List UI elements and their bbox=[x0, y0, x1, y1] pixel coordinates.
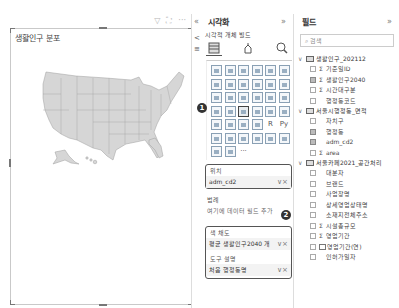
field-item[interactable]: 영업기간(연) bbox=[298, 242, 398, 253]
table-node[interactable]: ∨ 서울시행정동_면적 bbox=[298, 106, 398, 116]
power-apps-icon[interactable] bbox=[279, 133, 290, 144]
multi-row-card-icon[interactable] bbox=[279, 106, 290, 117]
resize-handle[interactable] bbox=[99, 27, 107, 29]
checkbox[interactable] bbox=[310, 212, 316, 218]
field-item[interactable]: 자치구 bbox=[298, 116, 398, 127]
line-chart-icon[interactable] bbox=[211, 79, 222, 90]
pie-chart-icon[interactable] bbox=[252, 92, 263, 103]
matrix-icon[interactable] bbox=[252, 119, 263, 130]
gauge-icon[interactable] bbox=[252, 106, 263, 117]
filter-icon[interactable]: ▽ bbox=[154, 16, 160, 26]
card-icon[interactable] bbox=[265, 106, 276, 117]
filled-map-visual[interactable]: ▽ ⛶ ··· 생활인구 분포 bbox=[10, 28, 193, 305]
100-stacked-column-chart-icon[interactable] bbox=[279, 65, 290, 76]
clustered-column-chart-icon[interactable] bbox=[252, 65, 263, 76]
filled-map-icon[interactable] bbox=[238, 106, 249, 117]
format-tab[interactable] bbox=[240, 40, 256, 56]
legend-drop-zone[interactable]: 여기에 데이터 필드 추가 bbox=[205, 205, 292, 217]
table-node[interactable]: ∨ 서울카페2021_공간처리 bbox=[298, 158, 398, 168]
checkbox[interactable] bbox=[310, 254, 316, 260]
field-item[interactable]: 대분자 bbox=[298, 168, 398, 179]
collapse-pane-icon[interactable]: « bbox=[194, 17, 204, 26]
more-visuals-icon[interactable]: ··· bbox=[238, 146, 249, 157]
stacked-bar-chart-icon[interactable] bbox=[211, 65, 222, 76]
field-item[interactable]: 상세영업상태명 bbox=[298, 200, 398, 211]
field-item[interactable]: Σ시간대구분 bbox=[298, 85, 398, 96]
location-field[interactable]: adm_cd2 ∨× bbox=[206, 176, 291, 188]
saturation-field[interactable]: 평균 생활인구2040 개 ∨× bbox=[206, 238, 291, 250]
field-item[interactable]: Σ영업기간 bbox=[298, 231, 398, 242]
map-icon[interactable] bbox=[211, 106, 222, 117]
table-node[interactable]: ∨ 생활인구_202112 bbox=[298, 54, 398, 64]
checkbox[interactable] bbox=[310, 118, 316, 124]
field-dropdown-remove-icon[interactable]: ∨× bbox=[277, 176, 288, 188]
field-item[interactable]: 소재지전체주소 bbox=[298, 210, 398, 221]
checkbox[interactable] bbox=[310, 181, 316, 187]
field-item[interactable]: 인허가일자 bbox=[298, 252, 398, 263]
filters-icon[interactable]: ≡ bbox=[194, 45, 202, 53]
checkbox[interactable] bbox=[310, 202, 316, 208]
checkbox[interactable] bbox=[310, 98, 316, 104]
expand-pane-icon[interactable]: » bbox=[281, 17, 291, 26]
funnel-chart-icon[interactable] bbox=[225, 92, 236, 103]
build-visual-tab[interactable] bbox=[206, 40, 222, 56]
checkbox[interactable] bbox=[310, 233, 316, 239]
area-chart-icon[interactable] bbox=[225, 79, 236, 90]
field-item[interactable]: 브랜드 bbox=[298, 179, 398, 190]
table-icon[interactable] bbox=[238, 119, 249, 130]
shape-map-icon[interactable] bbox=[225, 106, 236, 117]
clustered-bar-chart-icon[interactable] bbox=[238, 65, 249, 76]
chevron-down-icon[interactable]: ∨ bbox=[298, 106, 304, 116]
checkbox[interactable] bbox=[310, 66, 316, 72]
python-visual-icon[interactable]: Py bbox=[279, 119, 290, 130]
field-item[interactable]: Σ생활인구2040 bbox=[298, 75, 398, 86]
resize-handle[interactable] bbox=[99, 304, 107, 306]
checkbox[interactable] bbox=[310, 87, 316, 93]
chevron-down-icon[interactable]: ∨ bbox=[298, 54, 304, 64]
stacked-area-chart-icon[interactable] bbox=[238, 79, 249, 90]
expand-pane-icon[interactable]: » bbox=[387, 17, 397, 26]
more-options-icon[interactable]: ··· bbox=[178, 16, 186, 26]
focus-mode-icon[interactable]: ⛶ bbox=[166, 16, 172, 26]
checkbox[interactable] bbox=[310, 150, 316, 156]
checkbox[interactable] bbox=[310, 244, 316, 250]
field-dropdown-remove-icon[interactable]: ∨× bbox=[277, 238, 288, 250]
analytics-tab[interactable] bbox=[274, 40, 290, 56]
treemap-icon[interactable] bbox=[279, 92, 290, 103]
donut-chart-icon[interactable] bbox=[265, 92, 276, 103]
kpi-icon[interactable] bbox=[211, 119, 222, 130]
line-clustered-column-icon[interactable] bbox=[265, 79, 276, 90]
field-dropdown-remove-icon[interactable]: ∨× bbox=[277, 264, 288, 276]
fields-search-input[interactable]: ⌕ 검색 bbox=[300, 34, 394, 47]
100-stacked-bar-chart-icon[interactable] bbox=[265, 65, 276, 76]
field-item[interactable]: 행정동코드 bbox=[298, 96, 398, 107]
checkbox[interactable] bbox=[310, 139, 316, 145]
checkbox[interactable] bbox=[310, 129, 316, 135]
qa-icon[interactable] bbox=[238, 133, 249, 144]
checkbox[interactable] bbox=[310, 77, 316, 83]
decomposition-tree-icon[interactable] bbox=[225, 133, 236, 144]
r-visual-icon[interactable]: R bbox=[265, 119, 276, 130]
slicer-icon[interactable] bbox=[225, 119, 236, 130]
ribbon-chart-icon[interactable] bbox=[279, 79, 290, 90]
field-item[interactable]: Σarea bbox=[298, 148, 398, 159]
waterfall-chart-icon[interactable] bbox=[211, 92, 222, 103]
field-item[interactable]: 행정동 bbox=[298, 127, 398, 138]
azure-map-icon[interactable] bbox=[225, 146, 236, 157]
chevron-down-icon[interactable]: ∨ bbox=[298, 158, 304, 168]
resize-handle[interactable] bbox=[9, 159, 11, 167]
key-influencers-icon[interactable] bbox=[211, 133, 222, 144]
share-icon[interactable]: < bbox=[194, 34, 202, 42]
field-item[interactable]: adm_cd2 bbox=[298, 137, 398, 148]
field-item[interactable]: Σ시설총규모 bbox=[298, 221, 398, 232]
paginated-report-icon[interactable] bbox=[265, 133, 276, 144]
line-stacked-column-icon[interactable] bbox=[252, 79, 263, 90]
power-automate-icon[interactable] bbox=[211, 146, 222, 157]
checkbox[interactable] bbox=[310, 223, 316, 229]
resize-handle[interactable] bbox=[10, 300, 15, 305]
smart-narrative-icon[interactable] bbox=[252, 133, 263, 144]
field-item[interactable]: 사업장명 bbox=[298, 189, 398, 200]
tooltip-field[interactable]: 처음 행정동명 ∨× bbox=[206, 264, 291, 276]
stacked-column-chart-icon[interactable] bbox=[225, 65, 236, 76]
checkbox[interactable] bbox=[310, 170, 316, 176]
